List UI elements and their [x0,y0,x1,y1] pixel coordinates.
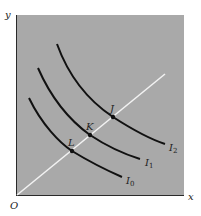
x-axis-label: x [188,191,194,202]
indifference-curve-diagram: L K J I0 I1 I2 y x O [0,0,201,216]
plot-panel [16,15,184,196]
point-k-label: K [85,121,94,132]
point-l-label: L [67,137,75,148]
point-j-label: J [108,103,115,114]
origin-label: O [10,200,18,211]
point-j-marker [111,115,115,119]
y-axis-label: y [4,9,11,20]
point-k-marker [88,133,92,137]
point-l-marker [70,149,74,153]
